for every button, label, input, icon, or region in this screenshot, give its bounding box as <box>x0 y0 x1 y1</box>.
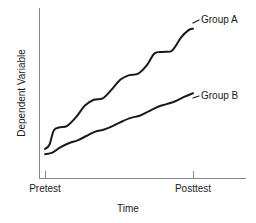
x-tick-label-posttest: Posttest <box>175 183 211 194</box>
series-line-group-b <box>45 93 193 154</box>
chart-figure: Group A Group B Pretest Posttest Time De… <box>0 0 256 223</box>
series-line-group-a <box>45 29 193 149</box>
leader-line-group-a <box>193 20 199 23</box>
x-axis-title: Time <box>117 203 139 214</box>
series-label-group-b: Group B <box>201 90 239 101</box>
y-axis-title: Dependent Variable <box>16 49 27 137</box>
chart-canvas: Group A Group B Pretest Posttest Time De… <box>0 0 256 223</box>
series-label-group-a: Group A <box>201 14 238 25</box>
leader-line-group-b <box>193 96 199 98</box>
x-tick-label-pretest: Pretest <box>29 183 61 194</box>
